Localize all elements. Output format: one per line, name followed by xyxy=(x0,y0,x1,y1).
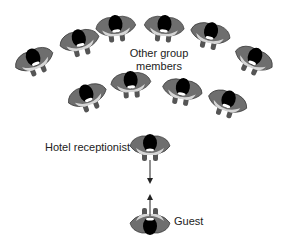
group-member-figure-icon xyxy=(201,82,253,126)
group-member-figure-icon xyxy=(62,75,114,120)
arrow-down-icon xyxy=(145,160,155,186)
guest-label: Guest xyxy=(174,215,203,228)
receptionist-label: Hotel receptionist xyxy=(45,141,130,154)
group-member-figure-icon xyxy=(9,39,62,85)
group-label-line2: members xyxy=(119,60,199,73)
group-member-figure-icon xyxy=(140,11,187,47)
group-label-line1: Other group xyxy=(119,47,199,60)
group-member-figure-icon xyxy=(92,11,139,47)
group-member-figure-icon xyxy=(158,72,207,111)
group-label: Other group members xyxy=(119,47,199,73)
group-member-figure-icon xyxy=(226,37,279,84)
arrow-up-icon xyxy=(145,194,155,216)
